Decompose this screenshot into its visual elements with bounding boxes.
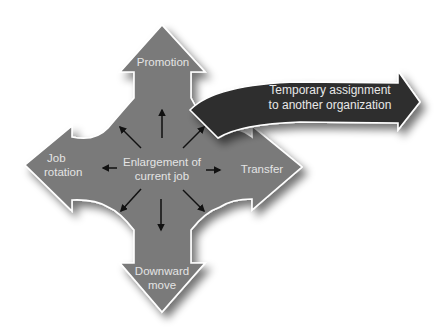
label-transfer: Transfer (237, 162, 287, 176)
label-temporary-assignment: Temporary assignment to another organiza… (262, 83, 398, 113)
label-center-line2: current job (117, 169, 207, 183)
label-job-rotation: Job rotation (44, 151, 82, 179)
label-center: Enlargement of current job (117, 155, 207, 183)
label-center-line1: Enlargement of (117, 155, 207, 169)
label-job-rotation-line1: Job (44, 151, 82, 165)
label-downward-move: Downward move (122, 264, 202, 292)
label-temporary-assignment-line2: to another organization (262, 98, 398, 113)
label-temporary-assignment-line1: Temporary assignment (262, 83, 398, 98)
label-promotion: Promotion (124, 55, 202, 69)
label-downward-move-line2: move (122, 278, 202, 292)
label-downward-move-line1: Downward (122, 264, 202, 278)
label-job-rotation-line2: rotation (44, 165, 82, 179)
